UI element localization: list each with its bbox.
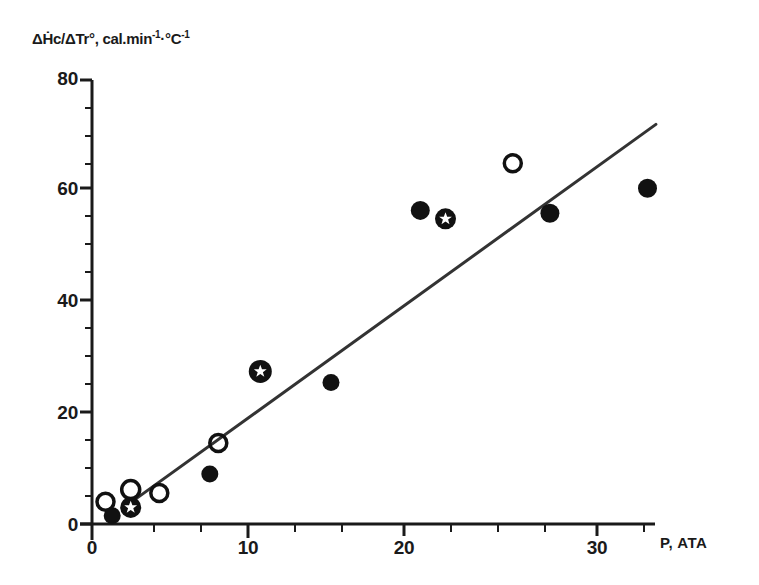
data-point-star-in-circle	[249, 360, 272, 383]
series-filled-circle	[104, 179, 657, 525]
x-major-ticks	[92, 524, 597, 540]
plot-area: ΔḢc/ΔTr°, cal.min-1·°C-1 P, ATA 80 60 40…	[0, 0, 759, 585]
data-point-open-circle	[151, 484, 168, 501]
trend-line	[124, 124, 656, 507]
series-open-circle	[97, 155, 521, 511]
data-point-filled-circle	[104, 507, 121, 524]
data-point-star-in-circle	[120, 497, 141, 518]
data-point-open-circle	[122, 481, 140, 499]
data-point-filled-circle	[323, 374, 340, 391]
chart-canvas	[0, 0, 759, 585]
chart-page: ΔḢc/ΔTr°, cal.min-1·°C-1 P, ATA 80 60 40…	[0, 0, 759, 585]
data-point-filled-circle	[540, 204, 559, 223]
data-point-filled-circle	[638, 179, 657, 198]
data-point-open-circle	[504, 155, 521, 172]
data-point-filled-circle	[201, 466, 218, 483]
data-point-filled-circle	[411, 201, 430, 220]
trend-line-group	[124, 124, 656, 507]
series-star-in-circle	[120, 208, 456, 518]
axis-lines	[80, 80, 655, 524]
y-major-ticks	[80, 80, 92, 524]
data-point-star-in-circle	[435, 208, 456, 229]
